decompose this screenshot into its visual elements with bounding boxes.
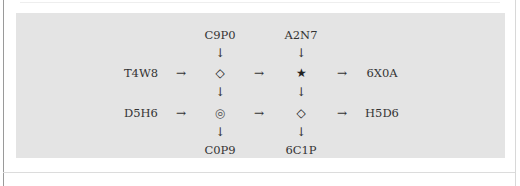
down-arrow-icon: ↓ bbox=[215, 86, 225, 98]
down-arrow-icon: ↓ bbox=[215, 47, 225, 59]
row2-input: D5H6 bbox=[124, 106, 158, 120]
right-arrow-icon: → bbox=[337, 67, 347, 79]
right-arrow-icon: → bbox=[254, 67, 264, 79]
top-input-right: A2N7 bbox=[284, 28, 317, 42]
row1-output: 6X0A bbox=[366, 66, 397, 80]
bottom-output-left: C0P9 bbox=[204, 143, 235, 157]
diagram-panel bbox=[16, 13, 505, 158]
top-input-left: C9P0 bbox=[204, 28, 235, 42]
down-arrow-icon: ↓ bbox=[296, 86, 306, 98]
star-icon: ★ bbox=[296, 67, 307, 79]
diamond-icon: ◇ bbox=[215, 67, 224, 79]
diamond-icon: ◇ bbox=[296, 107, 305, 119]
right-arrow-icon: → bbox=[176, 107, 186, 119]
right-border bbox=[515, 0, 516, 186]
bottom-divider bbox=[3, 172, 515, 173]
row2-output: H5D6 bbox=[365, 106, 399, 120]
right-arrow-icon: → bbox=[176, 67, 186, 79]
left-border bbox=[3, 0, 4, 186]
bullseye-icon: ◎ bbox=[215, 107, 225, 119]
row1-input: T4W8 bbox=[124, 66, 158, 80]
right-arrow-icon: → bbox=[337, 107, 347, 119]
down-arrow-icon: ↓ bbox=[215, 126, 225, 138]
right-arrow-icon: → bbox=[254, 107, 264, 119]
bottom-output-right: 6C1P bbox=[285, 143, 316, 157]
down-arrow-icon: ↓ bbox=[296, 47, 306, 59]
down-arrow-icon: ↓ bbox=[296, 126, 306, 138]
top-divider bbox=[20, 2, 500, 3]
